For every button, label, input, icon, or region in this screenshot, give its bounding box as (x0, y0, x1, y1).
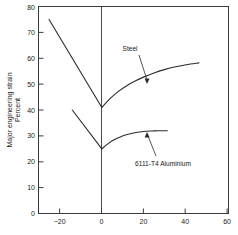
y-tick-label-70: 70 (27, 29, 35, 36)
y-axis-title-line1: Major engineering strain (6, 72, 14, 147)
y-tick-label-0: 0 (31, 210, 35, 217)
y-tick-label-50: 50 (27, 81, 35, 88)
y-axis-title-line2: Percent (14, 98, 21, 122)
chart-canvas: 0 10 20 30 40 50 60 70 80 −20 0 20 40 60… (0, 0, 238, 235)
y-tick-label-40: 40 (27, 107, 35, 114)
aluminium-series-label: 6111-T4 Aluminium (135, 160, 191, 167)
forming-limit-chart: 0 10 20 30 40 50 60 70 80 −20 0 20 40 60… (0, 0, 238, 235)
y-tick-label-30: 30 (27, 132, 35, 139)
x-tick-label-60: 60 (223, 218, 231, 225)
steel-series-label: Steel (122, 45, 138, 52)
y-tick-label-80: 80 (27, 4, 35, 11)
y-tick-label-20: 20 (27, 158, 35, 165)
chart-background (0, 0, 238, 235)
x-tick-label-0: 0 (100, 218, 104, 225)
x-tick-label-neg20: −20 (54, 218, 66, 225)
x-tick-label-20: 20 (140, 218, 148, 225)
y-tick-label-60: 60 (27, 55, 35, 62)
x-tick-label-40: 40 (181, 218, 189, 225)
y-tick-label-10: 10 (27, 184, 35, 191)
